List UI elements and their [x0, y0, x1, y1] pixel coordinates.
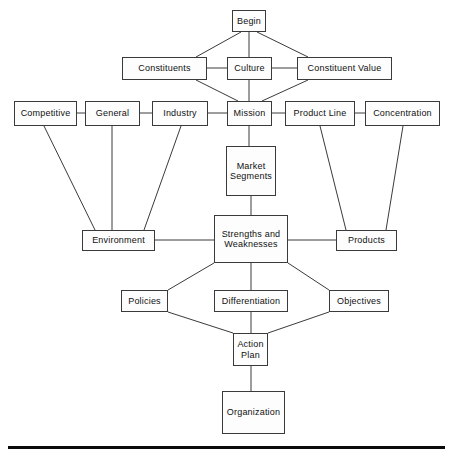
- footer-rule: [8, 446, 445, 449]
- node-concentration[interactable]: Concentration: [365, 101, 440, 126]
- node-constituents[interactable]: Constituents: [122, 57, 207, 80]
- connector-strengths_weaknesses-to-policies: [168, 263, 214, 290]
- connector-product_line-to-products: [320, 126, 346, 230]
- connector-objectives-to-action_plan: [268, 312, 329, 333]
- connector-concentration-to-products: [386, 126, 403, 230]
- node-industry[interactable]: Industry: [152, 101, 208, 126]
- node-mission[interactable]: Mission: [227, 101, 272, 126]
- node-strengths_weaknesses[interactable]: Strengths and Weaknesses: [214, 215, 288, 263]
- node-action_plan[interactable]: Action Plan: [233, 333, 268, 366]
- node-constituent_value[interactable]: Constituent Value: [297, 57, 392, 80]
- connector-policies-to-action_plan: [168, 312, 233, 333]
- node-environment[interactable]: Environment: [82, 230, 155, 251]
- connector-begin-to-constituents: [196, 32, 241, 57]
- node-begin[interactable]: Begin: [232, 10, 266, 32]
- connector-constituent_value-to-mission: [262, 80, 308, 101]
- node-competitive[interactable]: Competitive: [14, 101, 77, 126]
- node-objectives[interactable]: Objectives: [329, 290, 389, 312]
- connector-industry-to-environment: [144, 126, 181, 230]
- node-organization[interactable]: Organization: [222, 391, 285, 434]
- node-culture[interactable]: Culture: [227, 57, 272, 80]
- connector-constituents-to-mission: [196, 80, 238, 101]
- connector-strengths_weaknesses-to-objectives: [288, 263, 329, 290]
- node-market_segments[interactable]: Market Segments: [226, 146, 276, 196]
- node-policies[interactable]: Policies: [121, 290, 168, 312]
- connector-begin-to-constituent_value: [257, 32, 308, 57]
- node-general[interactable]: General: [85, 101, 140, 126]
- node-products[interactable]: Products: [336, 230, 397, 251]
- connector-competitive-to-environment: [44, 126, 95, 230]
- diagram-canvas: BeginConstituentsCultureConstituent Valu…: [0, 0, 452, 457]
- node-differentiation[interactable]: Differentiation: [214, 290, 288, 312]
- node-product_line[interactable]: Product Line: [285, 101, 355, 126]
